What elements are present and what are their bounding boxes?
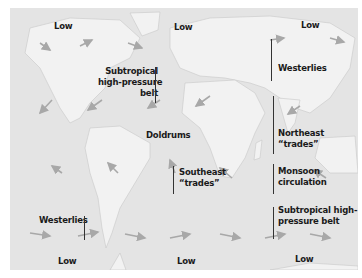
label-westerlies-north: Westerlies [278,63,327,74]
label-doldrums: Doldrums [146,130,190,141]
westerlies-south-divider [84,216,85,240]
label-low-southeast: Low [295,254,314,265]
label-low-northwest: Low [54,21,73,32]
south-america-landmass [85,126,150,248]
madagascar-landmass [254,140,262,160]
label-subtropical-south: Subtropical high- pressure belt [278,205,357,227]
label-low-north-center: Low [174,22,193,33]
label-low-south-center: Low [177,256,196,267]
world-wind-map: Low Low Low Subtropical high-pressure be… [10,8,358,270]
label-subtropical-north: Subtropical high-pressure belt [98,66,158,99]
greenland-landmass [130,12,160,36]
monsoon-divider [273,164,274,194]
africa-landmass [182,80,265,178]
northeast-trades-divider [273,96,274,154]
label-monsoon-circulation: Monsoon circulation [278,166,327,188]
label-low-southwest: Low [58,256,77,267]
label-southeast-trades: Southeast “trades” [179,167,226,189]
subtropical-north-divider [155,67,156,103]
subtropical-south-divider [273,207,274,239]
label-westerlies-south: Westerlies [39,215,88,226]
label-low-northeast: Low [301,20,320,31]
label-northeast-trades: Northeast “trades” [278,128,324,150]
westerlies-north-divider [271,39,272,81]
southeast-trades-divider [173,166,174,194]
antarctica-landmass [110,253,358,270]
